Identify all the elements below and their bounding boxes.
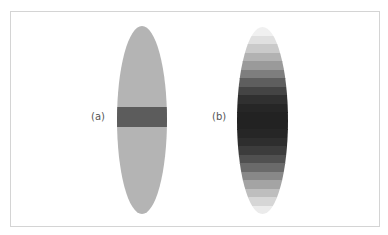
panel-a-label: (a) [91, 111, 105, 123]
panel-a-ellipse [117, 26, 167, 214]
panel-b-gradient-ellipse [237, 27, 288, 214]
gradient-stripe [237, 206, 288, 215]
panel-a-dark-band [117, 107, 167, 127]
panel-b-label: (b) [212, 111, 226, 123]
figure-frame [10, 11, 380, 227]
